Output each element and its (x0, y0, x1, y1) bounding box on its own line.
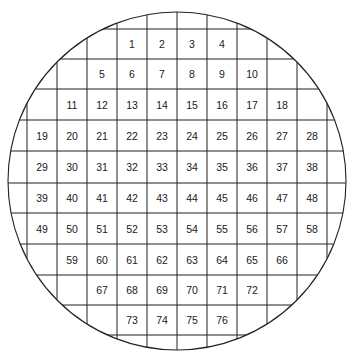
die-cell-label: 64 (216, 254, 228, 266)
die-cell-label: 3 (189, 38, 195, 50)
die-cell-label: 66 (276, 254, 288, 266)
die-cell-label: 15 (186, 99, 198, 111)
die-cell-label: 60 (96, 254, 108, 266)
die-cell-label: 5 (99, 68, 105, 80)
die-cell-label: 9 (219, 68, 225, 80)
die-cell-label: 53 (156, 223, 168, 235)
die-cell-label: 56 (246, 223, 258, 235)
die-cell-label: 76 (216, 314, 228, 326)
die-cell-label: 57 (276, 223, 288, 235)
die-cell-label: 25 (216, 130, 228, 142)
die-cell-label: 63 (186, 254, 198, 266)
die-cell-label: 74 (156, 314, 168, 326)
die-cell-label: 36 (246, 161, 258, 173)
die-cell-label: 6 (129, 68, 135, 80)
die-cell-label: 38 (306, 161, 318, 173)
die-cell-label: 61 (126, 254, 138, 266)
die-cell-label: 52 (126, 223, 138, 235)
die-cell-label: 72 (246, 284, 258, 296)
die-grid (0, 0, 350, 360)
die-cell-label: 18 (276, 99, 288, 111)
die-cell-label: 69 (156, 284, 168, 296)
die-cell-label: 16 (216, 99, 228, 111)
die-cell-label: 67 (96, 284, 108, 296)
die-cell-label: 75 (186, 314, 198, 326)
die-cell-label: 4 (219, 38, 225, 50)
die-cell-label: 37 (276, 161, 288, 173)
die-cell-label: 27 (276, 130, 288, 142)
die-cell-label: 55 (216, 223, 228, 235)
die-cell-label: 59 (66, 254, 78, 266)
die-cell-label: 39 (36, 192, 48, 204)
die-cell-label: 29 (36, 161, 48, 173)
die-cell-label: 24 (186, 130, 198, 142)
die-cell-label: 42 (126, 192, 138, 204)
die-cell-label: 71 (216, 284, 228, 296)
die-cell-label: 33 (156, 161, 168, 173)
die-cell-label: 2 (159, 38, 165, 50)
die-cell-label: 65 (246, 254, 258, 266)
die-cell-label: 8 (189, 68, 195, 80)
die-cell-label: 17 (246, 99, 258, 111)
die-cell-label: 21 (96, 130, 108, 142)
die-cell-label: 13 (126, 99, 138, 111)
die-cell-label: 45 (216, 192, 228, 204)
die-cell-label: 40 (66, 192, 78, 204)
die-cell-label: 11 (67, 99, 78, 111)
die-cell-label: 22 (126, 130, 138, 142)
die-cell-label: 70 (186, 284, 198, 296)
die-cell-label: 43 (156, 192, 168, 204)
die-cell-label: 54 (186, 223, 198, 235)
die-cell-label: 10 (246, 68, 258, 80)
die-cell-label: 51 (96, 223, 108, 235)
die-cell-label: 44 (186, 192, 198, 204)
die-cell-label: 48 (306, 192, 318, 204)
die-cell-label: 47 (276, 192, 288, 204)
die-cell-label: 41 (96, 192, 108, 204)
die-cell-label: 49 (36, 223, 48, 235)
die-cell-label: 1 (129, 38, 135, 50)
wafer-map: 1234567891011121314151617181920212223242… (0, 0, 350, 360)
die-cell-label: 35 (216, 161, 228, 173)
die-cell-label: 20 (66, 130, 78, 142)
die-cell-label: 30 (66, 161, 78, 173)
die-cell-label: 31 (96, 161, 108, 173)
die-cell-label: 46 (246, 192, 258, 204)
die-cell-label: 19 (36, 130, 48, 142)
die-cell-label: 28 (306, 130, 318, 142)
die-cell-label: 32 (126, 161, 138, 173)
die-cell-label: 34 (186, 161, 198, 173)
die-cell-label: 7 (159, 68, 165, 80)
die-cell-label: 12 (96, 99, 108, 111)
die-cell-label: 14 (156, 99, 168, 111)
die-cell-label: 73 (126, 314, 138, 326)
die-cell-label: 23 (156, 130, 168, 142)
die-cell-label: 58 (306, 223, 318, 235)
die-cell-label: 62 (156, 254, 168, 266)
die-cell-label: 26 (246, 130, 258, 142)
die-cell-label: 50 (66, 223, 78, 235)
die-cell-label: 68 (126, 284, 138, 296)
